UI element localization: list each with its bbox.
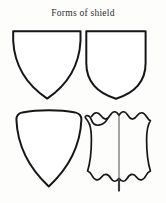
heater-shield-outline <box>13 31 80 98</box>
shield-figure-square <box>84 29 148 101</box>
shield-figure-heater <box>11 29 83 101</box>
targe-bouche-notch <box>85 116 107 126</box>
shield-figure-curved-top <box>14 109 84 189</box>
shield-figure-targe <box>84 107 154 193</box>
illustration-plate: Forms of shield <box>0 0 166 203</box>
page-title: Forms of shield <box>0 8 166 19</box>
square-shield-outline <box>86 31 145 98</box>
curved-top-shield-outline <box>16 110 81 186</box>
